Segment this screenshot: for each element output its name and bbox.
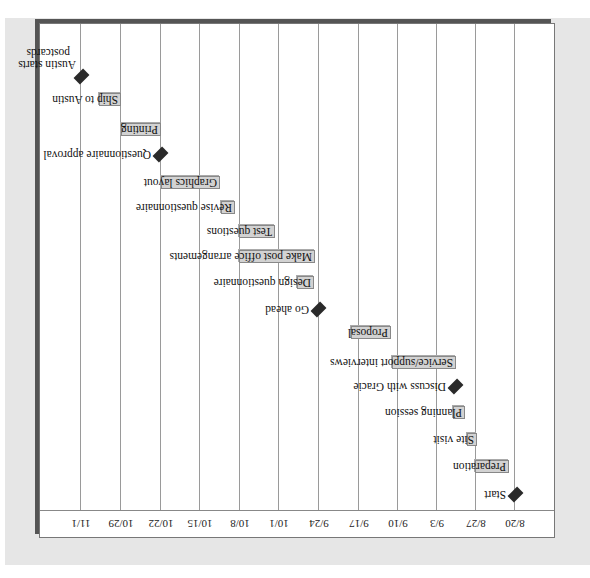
milestone-label: postcards <box>27 46 70 59</box>
gridline <box>160 24 161 510</box>
milestone-approval-icon <box>153 147 169 163</box>
gridline <box>239 24 240 510</box>
chart-frame: 8/20 8/27 9/3 9/10 9/17 9/24 10/1 10/8 1… <box>39 23 555 538</box>
task-label: Revise questionnaire <box>136 201 232 214</box>
task-label: Make post office arrangements <box>169 250 312 263</box>
gridline <box>199 24 200 510</box>
tick-label: 9/24 <box>309 518 329 530</box>
task-label: Preparation <box>453 460 506 473</box>
figure-caption <box>260 566 590 578</box>
milestone-label: Go ahead <box>265 303 309 316</box>
milestone-label: Start <box>484 488 506 501</box>
tick-label: 9/3 <box>430 518 444 530</box>
task-label: Design questionnaire <box>214 276 311 289</box>
tick-label: 10/8 <box>230 518 250 530</box>
milestone-go-ahead-icon <box>311 302 327 318</box>
tick-label: 10/22 <box>148 518 173 530</box>
milestone-discuss-icon <box>448 379 464 395</box>
tick-label: 9/10 <box>388 518 408 530</box>
task-label: Ship to Austin <box>52 93 118 106</box>
task-label: Service/support interviews <box>330 356 453 369</box>
tick-label: 10/29 <box>108 518 133 530</box>
gridline <box>318 24 319 510</box>
task-label: Printing <box>121 123 158 136</box>
tick-label: 8/20 <box>505 518 525 530</box>
gridline <box>278 24 279 510</box>
x-axis: 8/20 8/27 9/3 9/10 9/17 9/24 10/1 10/8 1… <box>40 510 554 537</box>
gridline <box>397 24 398 510</box>
tick-label: 9/17 <box>349 518 369 530</box>
task-label: Planning session <box>385 406 462 419</box>
task-label: Proposal <box>348 326 388 339</box>
gridline <box>514 24 515 510</box>
milestone-label: Discuss with Gracie <box>353 380 446 393</box>
milestone-label: Austin starts <box>18 58 76 71</box>
figure-panel: 8/20 8/27 9/3 9/10 9/17 9/24 10/1 10/8 1… <box>5 18 590 565</box>
tick-label: 10/15 <box>187 518 212 530</box>
task-label: Test questions <box>207 225 272 238</box>
tick-label: 10/1 <box>269 518 289 530</box>
task-label: Graphics layout <box>144 176 217 189</box>
milestone-start-icon <box>508 487 524 503</box>
gantt-figure: 8/20 8/27 9/3 9/10 9/17 9/24 10/1 10/8 1… <box>0 0 590 578</box>
gridline <box>358 24 359 510</box>
tick-label: 11/1 <box>71 518 90 530</box>
milestone-label: Questionnaire approval <box>43 148 151 161</box>
task-label: Site visit <box>433 433 474 446</box>
tick-label: 8/27 <box>466 518 486 530</box>
